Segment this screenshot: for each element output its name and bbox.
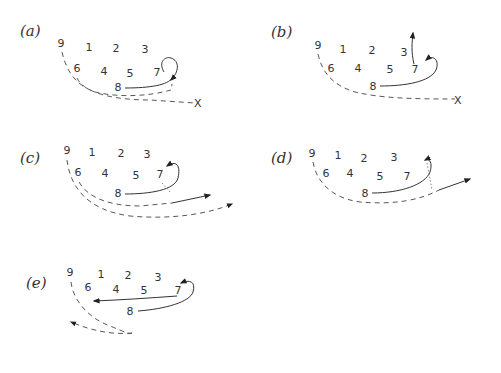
player-8: 8 xyxy=(370,80,377,93)
player-4: 4 xyxy=(347,167,354,180)
arrow-out-1 xyxy=(172,195,210,203)
player-3: 3 xyxy=(142,43,149,56)
panel-c-players: 912364578 xyxy=(64,144,164,200)
play-diagrams-figure: (a) 912364578 X (b) 912364578 X (c) 9123… xyxy=(0,0,501,373)
player-6: 6 xyxy=(75,166,82,179)
panel-b: (b) 912364578 X xyxy=(271,23,462,107)
player-8: 8 xyxy=(362,187,369,200)
player-5: 5 xyxy=(141,284,148,297)
dashed-run-9 xyxy=(67,160,232,217)
panel-d-label: (d) xyxy=(271,149,292,167)
panel-b-label: (b) xyxy=(271,23,292,41)
player-1: 1 xyxy=(335,149,342,162)
player-1: 1 xyxy=(89,146,96,159)
player-4: 4 xyxy=(102,167,109,180)
arrow-out xyxy=(439,179,470,190)
player-5: 5 xyxy=(377,170,384,183)
player-2: 2 xyxy=(125,269,132,282)
panel-a-players: 912364578 xyxy=(58,37,161,94)
panel-a-label: (a) xyxy=(20,22,41,40)
panel-c-label: (c) xyxy=(20,149,40,167)
player-7: 7 xyxy=(154,66,161,79)
player-3: 3 xyxy=(401,46,408,59)
player-5: 5 xyxy=(127,67,134,80)
player-9: 9 xyxy=(315,39,322,52)
arrow-7-to-6 xyxy=(94,296,177,301)
player-7: 7 xyxy=(157,168,164,181)
player-2: 2 xyxy=(118,147,125,160)
player-4: 4 xyxy=(101,65,108,78)
panel-e-players: 912364578 xyxy=(67,266,182,318)
player-3: 3 xyxy=(391,151,398,164)
panel-e: (e) 912364578 xyxy=(26,266,194,334)
panel-e-label: (e) xyxy=(26,274,47,292)
player-6: 6 xyxy=(85,281,92,294)
player-3: 3 xyxy=(144,148,151,161)
dashed-run-9 xyxy=(318,54,455,99)
panel-d-players: 912364578 xyxy=(309,147,411,200)
player-2: 2 xyxy=(113,42,120,55)
player-2: 2 xyxy=(361,152,368,165)
panel-a: (a) 912364578 X xyxy=(20,22,202,110)
player-1: 1 xyxy=(98,268,105,281)
player-4: 4 xyxy=(355,62,362,75)
panel-d: (d) 912364578 xyxy=(271,147,470,203)
player-9: 9 xyxy=(64,144,71,157)
player-3: 3 xyxy=(155,271,162,284)
player-9: 9 xyxy=(309,147,316,160)
loop-7 xyxy=(162,58,178,80)
player-7: 7 xyxy=(175,284,182,297)
player-1: 1 xyxy=(340,43,347,56)
player-6: 6 xyxy=(323,167,330,180)
player-8: 8 xyxy=(115,187,122,200)
player-6: 6 xyxy=(74,62,81,75)
end-marker-b: X xyxy=(454,94,462,107)
player-8: 8 xyxy=(127,305,134,318)
player-7: 7 xyxy=(412,63,419,76)
player-2: 2 xyxy=(369,44,376,57)
player-5: 5 xyxy=(387,63,394,76)
dashed-run-9 xyxy=(71,282,132,334)
arrow-7-up xyxy=(412,33,414,64)
panel-c: (c) 912364578 xyxy=(20,144,232,217)
player-6: 6 xyxy=(328,62,335,75)
player-8: 8 xyxy=(115,81,122,94)
player-5: 5 xyxy=(133,169,140,182)
player-9: 9 xyxy=(67,266,74,279)
player-1: 1 xyxy=(86,41,93,54)
player-4: 4 xyxy=(113,283,120,296)
player-7: 7 xyxy=(404,170,411,183)
dashed-run-6 xyxy=(77,78,195,103)
end-marker-a: X xyxy=(194,97,202,110)
player-9: 9 xyxy=(58,37,65,50)
